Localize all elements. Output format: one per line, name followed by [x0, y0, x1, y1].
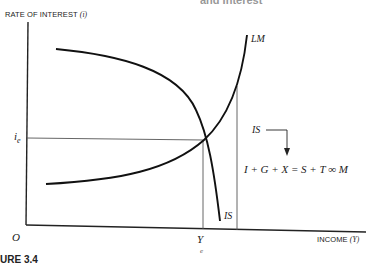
equilibrium-equation: I + G + X = S + T ∞ M: [244, 164, 348, 175]
interest-guide-line: [27, 138, 204, 140]
x-axis-symbol: (Y): [350, 235, 359, 244]
arrow-down-icon: [284, 148, 290, 156]
equilibrium-income-label: Y: [197, 234, 203, 245]
y-axis-title: RATE OF INTEREST (i): [5, 11, 87, 19]
origin-label: O: [12, 232, 20, 243]
y-axis-symbol: (i): [80, 10, 87, 19]
y-axis-line: [26, 22, 28, 225]
x-axis-label-text: INCOME: [317, 235, 348, 244]
equilibrium-interest-label: ie: [14, 131, 21, 145]
annotation-is-label: IS: [252, 125, 260, 135]
x-axis-title: INCOME (Y): [317, 236, 359, 244]
y-axis-label-text: RATE OF INTEREST: [5, 10, 78, 19]
lm-curve-label: LM: [251, 34, 265, 44]
is-curve-label: IS: [224, 211, 232, 221]
cropped-caption-text: URE 3.4: [0, 254, 38, 265]
equilibrium-income-subscript: e: [200, 248, 203, 255]
is-curve: [56, 49, 220, 221]
lm-curve: [46, 35, 247, 184]
x-axis-line: [26, 225, 366, 232]
interest-subscript: e: [17, 136, 21, 145]
